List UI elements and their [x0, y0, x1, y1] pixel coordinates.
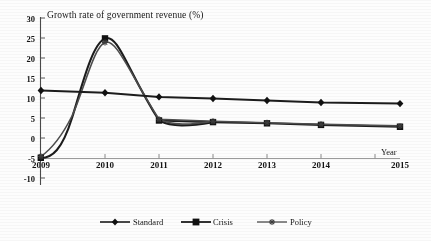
- x-axis-ticks: [41, 154, 375, 159]
- chart-figure: Growth rate of government revenue (%) 30…: [0, 0, 431, 241]
- series-markers-standard: [38, 87, 404, 108]
- legend-sample-policy: [257, 219, 287, 225]
- legend-sample-standard: [100, 219, 130, 226]
- plot-area: [0, 0, 431, 241]
- series-line-standard: [41, 91, 400, 104]
- legend-sample-crisis: [181, 219, 211, 226]
